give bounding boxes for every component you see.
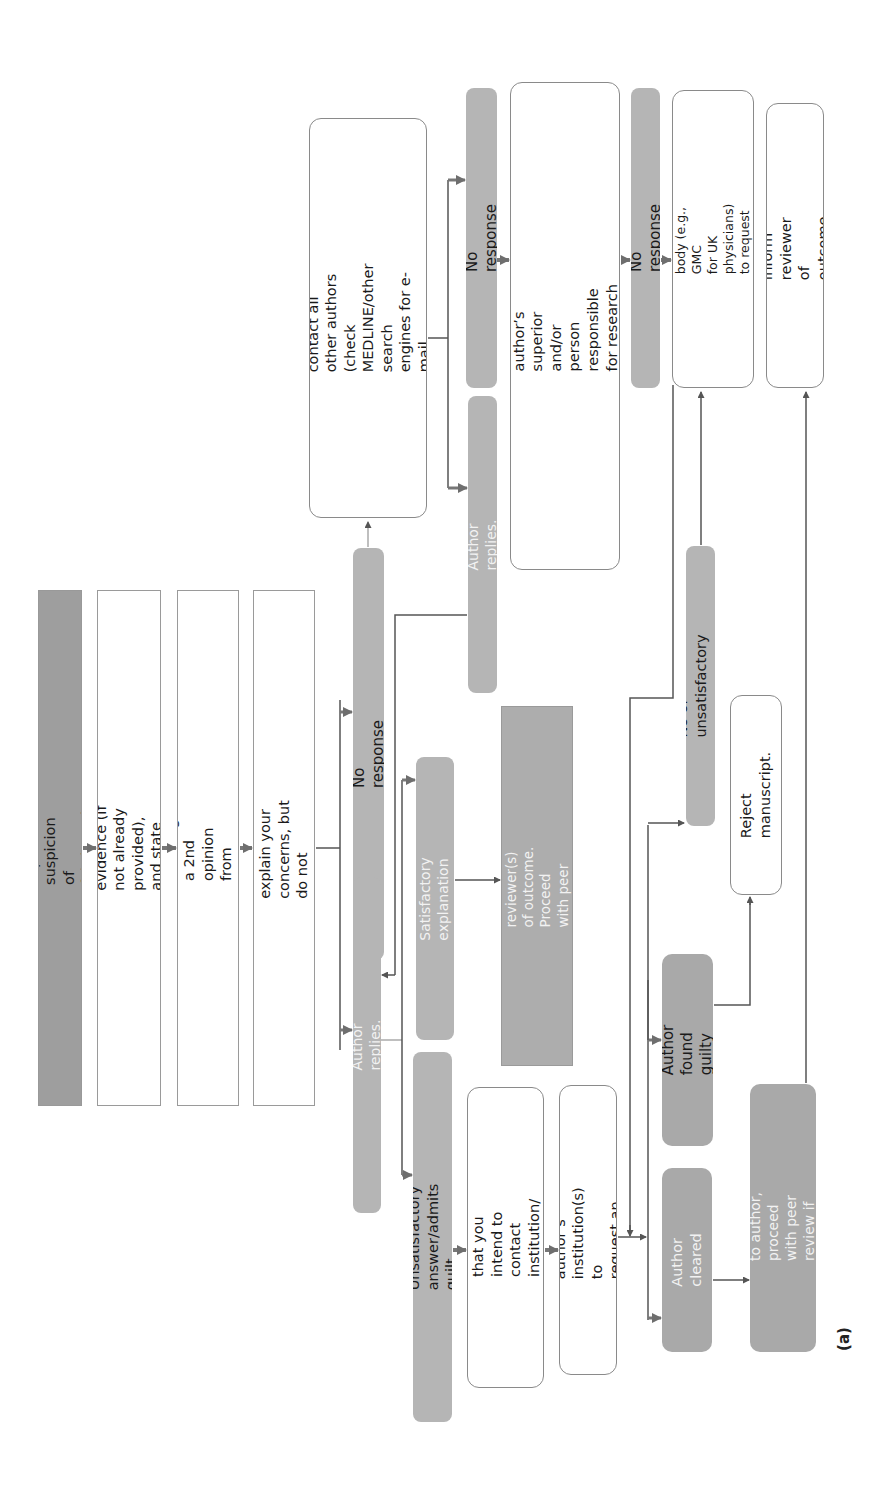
node-inform-all-authors: Inform all authors that you intend to co… [467, 1087, 544, 1388]
node-thank-reviewer: Thank reviewer, ask for evidence (if not… [97, 590, 161, 1106]
node-text: Inform all authors that you intend to co… [467, 1198, 544, 1276]
node-text: Contact author’s institution(s) to reque… [559, 1181, 617, 1279]
node-text: No response [466, 204, 497, 272]
node-contact-institution-concern: Contact author’s institution to request … [510, 82, 620, 570]
node-text: Author replies. [468, 519, 497, 570]
node-text: Contact regulatory body (e.g., GMC for U… [672, 204, 754, 275]
node-text: Reject manuscript. [737, 752, 774, 838]
node-unsatisfactory-answer: Unsatisfactory answer/admits guilt [413, 1052, 452, 1422]
node-author-replies-2: Author replies. [468, 396, 497, 693]
node-text: Contact author’s institution to request … [510, 281, 620, 372]
node-reject-manuscript: Reject manuscript. [730, 695, 782, 895]
node-satisfactory-explanation: Satisfactory explanation [416, 757, 454, 1040]
node-inform-reviewer: Inform reviewer of outcome. [766, 103, 824, 388]
node-text: Inform reviewer of outcome. [766, 211, 824, 279]
node-reviewer-suspicion: Reviewer expresses suspicion of fabricat… [38, 590, 82, 1106]
node-no-response-2: No response [466, 88, 497, 388]
node-text: Contact author to explain your concerns,… [253, 797, 315, 899]
node-text: Consider securing a 2nd opinion from ano… [177, 815, 239, 881]
node-text: Apologize to author, proceed with peer r… [750, 1175, 816, 1261]
node-attempt-contact-others: Attempt to contact all other authors (ch… [309, 118, 427, 518]
figure-label: (a) [835, 1327, 853, 1351]
node-text: Apologize to author, inform reviewer(s) … [501, 845, 573, 928]
node-author-found-guilty: Author found guilty [662, 954, 713, 1146]
node-author-cleared: Author cleared [662, 1168, 712, 1352]
node-text: Unsatisfactory answer/admits guilt [413, 1184, 452, 1291]
node-text: Author cleared [668, 1233, 705, 1287]
node-text: Satisfactory explanation [417, 857, 453, 940]
node-text: No response [353, 720, 384, 788]
node-contact-regulatory: Contact regulatory body (e.g., GMC for U… [672, 90, 754, 388]
node-contact-author: Contact author to explain your concerns,… [253, 590, 315, 1106]
node-text: Reviewer expresses suspicion of fabricat… [38, 811, 82, 885]
node-text: Author found guilty [662, 1025, 713, 1076]
node-apologize-inform: Apologize to author, inform reviewer(s) … [501, 706, 573, 1066]
node-text: Author replies. [353, 1019, 381, 1070]
node-contact-institution-investigation: Contact author’s institution(s) to reque… [559, 1085, 617, 1375]
node-apologize-proceed: Apologize to author, proceed with peer r… [750, 1084, 816, 1352]
node-text: Thank reviewer, ask for evidence (if not… [97, 805, 161, 890]
node-text: No or unsatisfactory response [686, 634, 715, 737]
node-second-opinion: Consider securing a 2nd opinion from ano… [177, 590, 239, 1106]
node-text: No response [631, 204, 660, 272]
node-no-or-unsatisfactory: No or unsatisfactory response [686, 546, 715, 826]
node-author-replies-1: Author replies. [353, 877, 381, 1213]
node-no-response-3: No response [631, 88, 660, 388]
node-text: Attempt to contact all other authors (ch… [309, 264, 427, 373]
